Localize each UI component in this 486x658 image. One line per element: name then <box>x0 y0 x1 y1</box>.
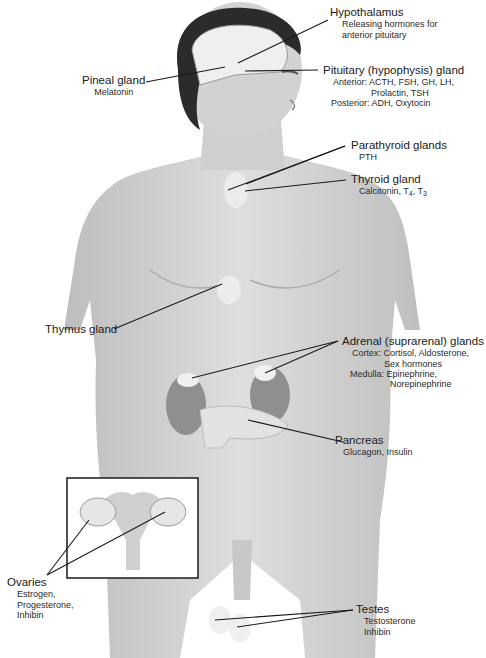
pancreas-name: Pancreas <box>335 434 413 447</box>
ovaries-hormone-2: Progesterone, <box>7 600 74 610</box>
pineal-hormones: Melatonin <box>82 87 145 97</box>
label-pineal: Pineal gland Melatonin <box>82 74 145 98</box>
label-parathyroid: Parathyroid glands PTH <box>351 139 447 163</box>
thymus-name: Thymus gland <box>45 323 117 336</box>
adrenal-medulla: Medulla: Epinephrine, <box>342 369 484 379</box>
label-adrenal: Adrenal (suprarenal) glands Cortex: Cort… <box>342 335 484 390</box>
label-ovaries: Ovaries Estrogen, Progesterone, Inhibin <box>7 576 74 620</box>
pineal-name: Pineal gland <box>82 74 145 87</box>
hypothalamus-name: Hypothalamus <box>330 6 438 19</box>
thymus-gland <box>217 276 241 304</box>
label-pituitary: Pituitary (hypophysis) gland Anterior: A… <box>323 64 464 108</box>
thyroid-name: Thyroid gland <box>351 173 427 186</box>
thyroid-hormones: Calcitonin, T4, T3 <box>351 186 427 198</box>
ovaries-name: Ovaries <box>7 576 74 589</box>
pituitary-name: Pituitary (hypophysis) gland <box>323 64 464 77</box>
ovaries-hormone-1: Estrogen, <box>7 589 74 599</box>
adrenal-name: Adrenal (suprarenal) glands <box>342 335 484 348</box>
pituitary-anterior-cont: Prolactin, TSH <box>323 88 464 98</box>
thyroid-gland <box>224 172 248 208</box>
pituitary-anterior: Anterior: ACTH, FSH, GH, LH, <box>323 77 464 87</box>
label-pancreas: Pancreas Glucagon, Insulin <box>335 434 413 458</box>
adrenal-cortex: Cortex: Cortisol, Aldosterone, <box>342 348 484 358</box>
pancreas-hormones: Glucagon, Insulin <box>335 447 413 457</box>
hypothalamus-hormones: Releasing hormones for <box>330 19 438 29</box>
adrenal-medulla-cont: Norepinephrine <box>342 379 484 389</box>
hypothalamus-hormones-cont: anterior pituitary <box>330 30 438 40</box>
parathyroid-hormones: PTH <box>351 152 447 162</box>
adrenal-left <box>177 373 199 387</box>
adrenal-cortex-cont: Sex hormones <box>342 359 484 369</box>
ovaries-inset <box>67 478 198 578</box>
testes-name: Testes <box>356 603 416 616</box>
pituitary-posterior: Posterior: ADH, Oxytocin <box>323 98 464 108</box>
testes-hormone-2: Inhibin <box>356 627 416 637</box>
label-thymus: Thymus gland <box>45 323 117 336</box>
parathyroid-name: Parathyroid glands <box>351 139 447 152</box>
testes-hormone-1: Testosterone <box>356 616 416 626</box>
label-testes: Testes Testosterone Inhibin <box>356 603 416 637</box>
label-thyroid: Thyroid gland Calcitonin, T4, T3 <box>351 173 427 198</box>
ovaries-hormone-3: Inhibin <box>7 610 74 620</box>
label-hypothalamus: Hypothalamus Releasing hormones for ante… <box>330 6 438 40</box>
